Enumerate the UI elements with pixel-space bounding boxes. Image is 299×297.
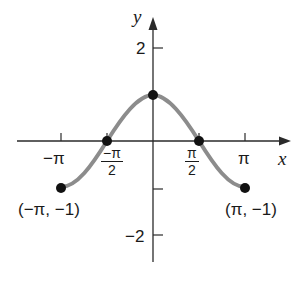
point-zero-one: [148, 90, 158, 100]
x-axis-arrow-icon: [279, 137, 291, 146]
fraction-numerator: π: [185, 146, 199, 162]
point-label-left: (−π, −1): [18, 201, 80, 218]
x-tick-label-neg-pi: −π: [43, 150, 65, 167]
fraction-numerator: −π: [101, 146, 123, 162]
y-axis-label: y: [133, 7, 141, 26]
point-label-right: (π, −1): [225, 201, 277, 218]
point-pi: [240, 183, 250, 193]
fraction-denominator: 2: [101, 162, 123, 177]
x-tick-label-pi: π: [238, 150, 250, 167]
y-axis-arrow-icon: [149, 17, 158, 30]
y-tick-label-2: 2: [136, 40, 145, 57]
point-neg-pi: [56, 183, 66, 193]
x-axis-label: x: [278, 149, 286, 168]
fraction-denominator: 2: [185, 162, 199, 177]
x-tick-label-neg-pi-half: −π 2: [101, 146, 123, 177]
x-tick-label-pi-half: π 2: [185, 146, 199, 177]
y-tick-label-neg-2: −2: [125, 228, 144, 245]
